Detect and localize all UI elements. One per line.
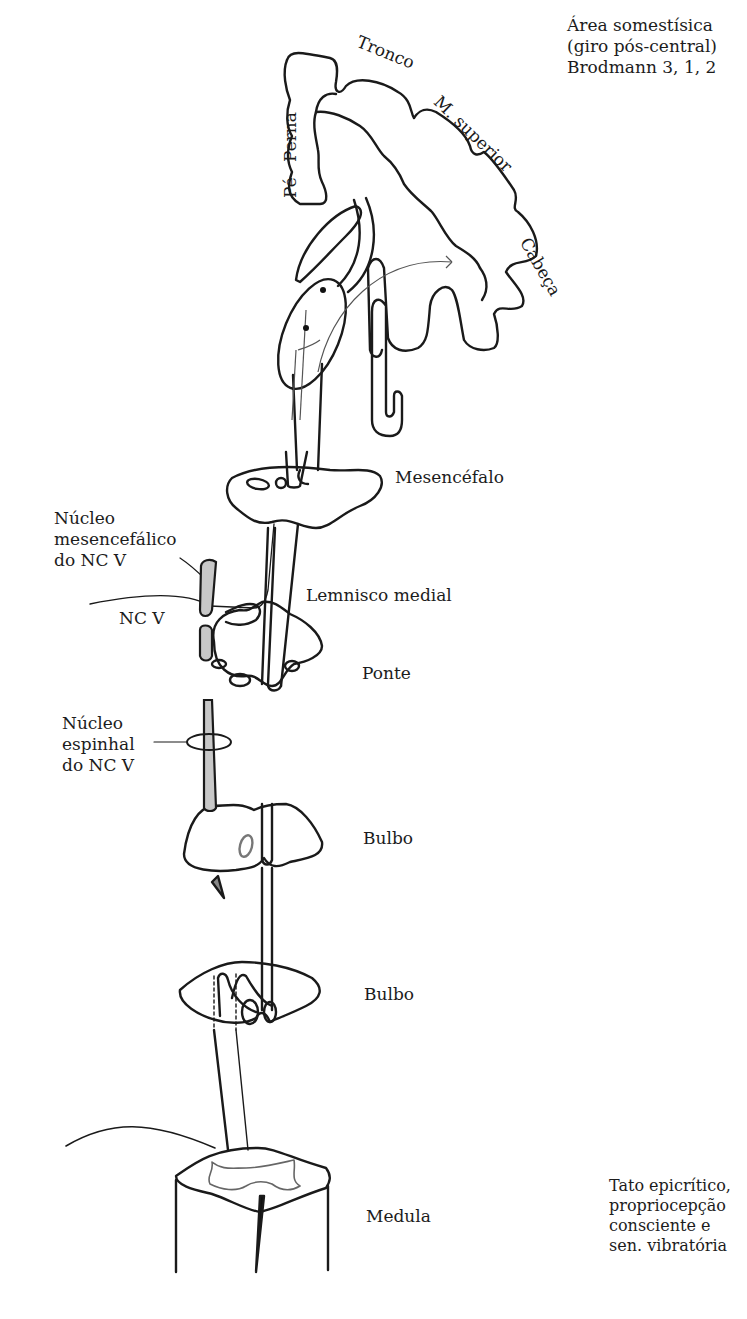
label-midbrain: Mesencéfalo [395,467,504,488]
cortex-area-line-2: (giro pós-central) [567,36,717,57]
pons-nucleus-fragment [200,626,212,661]
label-spinal-nucleus: Núcleo espinhal do NC V [62,713,135,776]
cortex-area-line-1: Área somestísica [567,15,717,36]
spinal-nucleus-line-2: espinhal [62,734,135,755]
midbrain-section [227,467,382,528]
spinal-nucleus-line-1: Núcleo [62,713,135,734]
modality-line-2: propriocepção [609,1196,731,1216]
spinal-nucleus [204,700,216,811]
medulla-lower-section [180,962,320,1023]
modalities-label: Tato epicrítico, propriocepção conscient… [609,1176,731,1256]
pathway-diagram [0,0,747,1319]
label-foot: Pé [280,177,300,198]
label-nc-v: NC V [119,608,165,629]
label-leg: Perna [280,112,300,162]
cortex-area-line-3: Brodmann 3, 1, 2 [567,57,717,78]
label-medial-lemniscus: Lemnisco medial [306,585,452,606]
cortex-outline [287,53,537,436]
medulla-upper-section [184,804,322,871]
mesencephalic-nucleus [200,560,216,616]
mesencephalic-line-3: do NC V [54,550,177,571]
spinal-cord [176,1148,330,1212]
cortex-area-label: Área somestísica (giro pós-central) Brod… [567,15,717,78]
label-spinal-cord: Medula [366,1206,431,1227]
mesencephalic-line-1: Núcleo [54,508,177,529]
mesencephalic-line-2: mesencefálico [54,529,177,550]
label-medulla-upper: Bulbo [363,828,413,849]
modality-line-1: Tato epicrítico, [609,1176,731,1196]
label-mesencephalic-nucleus: Núcleo mesencefálico do NC V [54,508,177,571]
label-medulla-lower: Bulbo [364,984,414,1005]
modality-line-4: sen. vibratória [609,1236,731,1256]
label-pons: Ponte [362,663,411,684]
thalamus [264,270,359,399]
spinal-nucleus-line-3: do NC V [62,755,135,776]
modality-line-3: consciente e [609,1216,731,1236]
